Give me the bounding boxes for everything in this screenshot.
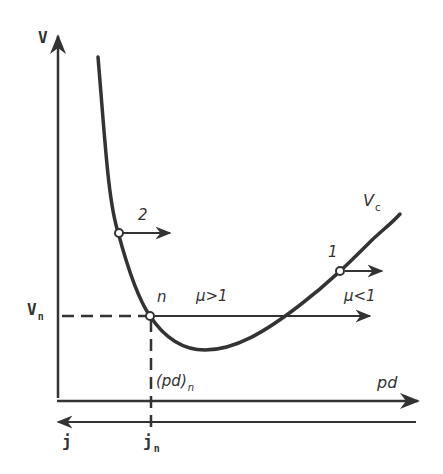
point-2-label: 2 [138, 208, 148, 223]
mu-lt-1-label: μ<1 [344, 289, 376, 304]
paschen-diagram [0, 0, 443, 474]
point-1-label: 1 [328, 245, 338, 260]
mu-gt-1-label: μ>1 [196, 289, 228, 304]
vn-label: Vn [27, 302, 44, 318]
point-1 [336, 267, 344, 275]
x-axis-label: pd [377, 375, 397, 391]
vc-label: Vc [363, 193, 380, 209]
vc-curve [98, 57, 400, 350]
jn-label: jn [143, 434, 160, 450]
pdn-label: (pd)n [156, 374, 194, 389]
point-n [146, 312, 154, 320]
point-2 [115, 229, 123, 237]
point-n-label: n [157, 290, 167, 305]
y-axis-label: V [38, 30, 48, 46]
j-axis-label: j [62, 434, 72, 450]
